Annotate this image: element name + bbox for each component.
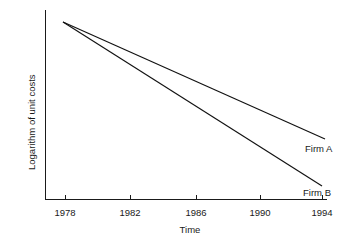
series-label-firm-a: Firm A [305, 144, 332, 154]
x-tick-label-1978: 1978 [54, 208, 75, 218]
series-line-firm-b [63, 22, 322, 186]
x-tick-label-1982: 1982 [119, 208, 140, 218]
x-axis-title: Time [180, 225, 201, 235]
series-line-firm-a [63, 22, 325, 139]
x-tick-label-1990: 1990 [249, 208, 270, 218]
x-tick-label-1986: 1986 [185, 208, 206, 218]
line-chart-figure: Logarithm of unit costs 1978 1982 1986 1… [0, 0, 353, 241]
x-tick-label-1994: 1994 [311, 208, 332, 218]
y-axis-title: Logarithm of unit costs [27, 74, 37, 170]
series-label-firm-b: Firm B [303, 188, 331, 198]
chart-plot-area [0, 0, 353, 241]
